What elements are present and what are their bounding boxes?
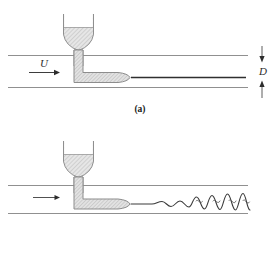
pipe-walls-b (8, 186, 248, 214)
panel-turbulent: (b) (0, 131, 280, 263)
panel-laminar: U D (a) (0, 0, 280, 131)
right-arrow-icon (29, 70, 60, 75)
diameter-label-D: D (259, 65, 267, 77)
right-arrow-icon (33, 195, 60, 200)
reynolds-experiment-figure: U D (a) (0, 0, 280, 263)
velocity-label-U: U (40, 57, 48, 69)
up-arrow-icon (259, 81, 264, 88)
down-arrow-icon (259, 56, 264, 63)
dye-injector-tube (74, 177, 130, 209)
panel-caption-a: (a) (0, 104, 280, 114)
dye-injector-tube (74, 50, 130, 83)
panel-b-drawing (0, 131, 280, 263)
